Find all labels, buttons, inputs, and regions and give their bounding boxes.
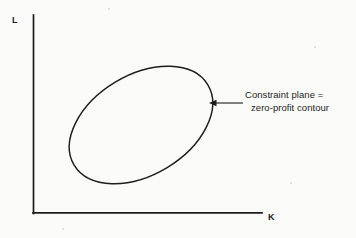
annotation-text: Constraint plane = zero-profit contour (245, 88, 329, 114)
annotation-text-line-1: Constraint plane = (245, 88, 329, 101)
y-axis-label: L (12, 16, 18, 25)
scan-speckle (290, 182, 292, 184)
figure-canvas: L K Constraint plane = zero-profit conto… (0, 0, 356, 238)
scan-speckle (108, 8, 110, 10)
figure-graphics (0, 0, 356, 238)
scan-speckle (314, 46, 316, 48)
zero-profit-contour-ellipse (48, 42, 233, 208)
annotation-text-line-2: zero-profit contour (245, 101, 329, 114)
scan-speckle (62, 228, 64, 230)
x-axis-label: K (268, 213, 275, 222)
